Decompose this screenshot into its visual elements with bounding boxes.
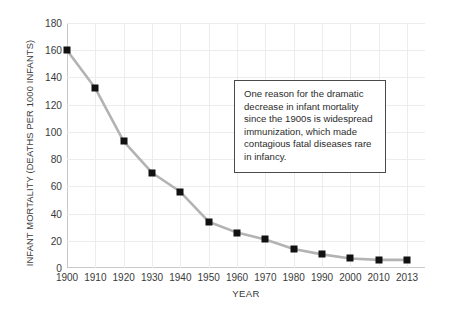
x-tick-label: 1990 [311,272,333,283]
x-tick-label: 1920 [113,272,135,283]
y-tick-label: 120 [45,99,62,110]
data-point-marker [177,188,184,195]
x-tick-label: 1960 [226,272,248,283]
y-axis-title: INFANT MORTALITY (DEATHS PER 1000 INFANT… [25,18,35,288]
x-axis-title: YEAR [67,288,425,299]
y-tick-label: 100 [45,126,62,137]
x-tick-label: 1980 [283,272,305,283]
annotation-text: One reason for the dramatic decrease in … [244,88,377,164]
annotation-callout: One reason for the dramatic decrease in … [234,80,386,173]
y-tick-label: 180 [45,18,62,29]
x-tick-label: 2013 [396,272,418,283]
y-tick-label: 160 [45,45,62,56]
x-tick-label: 1970 [254,272,276,283]
data-point-marker [262,236,269,243]
y-tick-label: 40 [51,208,62,219]
x-tick-label: 1910 [84,272,106,283]
x-tick-label: 1930 [141,272,163,283]
y-tick-label: 20 [51,235,62,246]
data-point-marker [92,85,99,92]
x-tick-label: 2000 [339,272,361,283]
data-point-marker [290,245,297,252]
data-point-marker [149,169,156,176]
y-tick-label: 80 [51,154,62,165]
data-point-marker [404,256,411,263]
data-point-marker [205,218,212,225]
data-point-marker [120,138,127,145]
x-tick-label: 1940 [169,272,191,283]
y-tick-label: 140 [45,72,62,83]
x-tick-label: 2010 [368,272,390,283]
x-tick-label: 1900 [56,272,78,283]
chart-figure: INFANT MORTALITY (DEATHS PER 1000 INFANT… [0,0,455,317]
data-point-marker [64,47,71,54]
data-point-marker [347,255,354,262]
data-point-marker [234,229,241,236]
plot-area: 020406080100120140160180 190019101920193… [67,23,425,268]
data-point-marker [375,256,382,263]
y-tick-label: 60 [51,181,62,192]
x-tick-label: 1950 [198,272,220,283]
data-point-marker [319,251,326,258]
